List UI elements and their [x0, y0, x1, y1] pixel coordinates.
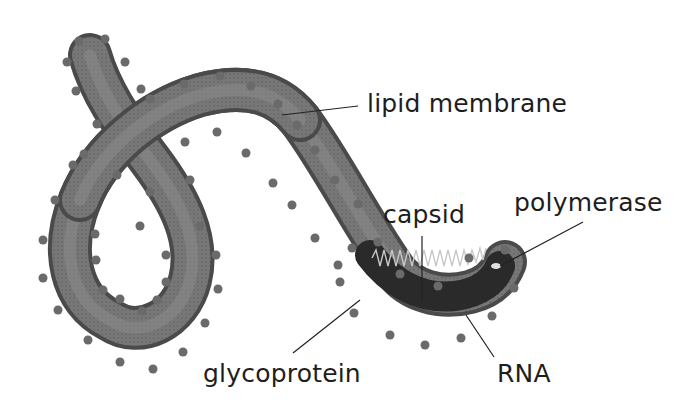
- label-lipid-membrane: lipid membrane: [367, 91, 567, 116]
- glycoprotein-line: [293, 300, 360, 353]
- label-rna: RNA: [497, 361, 551, 386]
- rna-line: [466, 315, 494, 357]
- label-polymerase: polymerase: [514, 190, 663, 215]
- label-glycoprotein: glycoprotein: [203, 361, 361, 386]
- polymerase-blob: [491, 263, 501, 269]
- label-capsid: capsid: [383, 202, 465, 227]
